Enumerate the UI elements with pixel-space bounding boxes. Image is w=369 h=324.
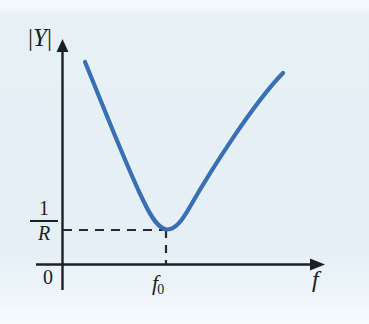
x-axis-label: f (312, 266, 319, 293)
ytick-numerator: 1 (30, 198, 58, 219)
ytick-label-one-over-r: 1 R (30, 198, 58, 244)
y-axis-arrowhead (57, 39, 69, 52)
admittance-curve (85, 62, 283, 230)
y-axis-label: |Y| (28, 24, 52, 52)
y-axis-symbol: Y (33, 24, 47, 51)
y-axis-bar-right: | (47, 24, 52, 51)
origin-label: 0 (43, 266, 53, 289)
f0-subscript: 0 (157, 282, 164, 297)
ytick-denominator: R (30, 223, 58, 244)
f0-tick-label: f0 (152, 270, 164, 298)
figure-canvas: |Y| f 0 f0 1 R (0, 0, 369, 324)
